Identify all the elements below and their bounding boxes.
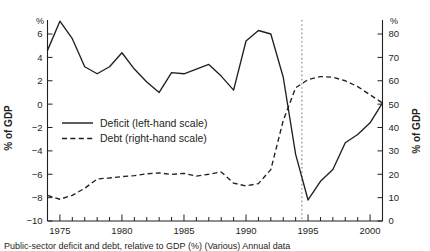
right-axis-title: % of GDP [411,108,422,154]
x-tick-label: 1980 [111,225,132,236]
right-tick-label: 50 [389,99,400,110]
left-axis-title: % of GDP [3,105,14,151]
left-tick-label: 0 [37,99,42,110]
right-tick-label: 80 [389,28,400,39]
right-tick-label: 40 [389,122,400,133]
right-tick-label: 0 [389,215,394,226]
left-axis-unit-label: % [36,16,44,26]
left-tick-label: 4 [37,52,42,63]
left-tick-label: −8 [32,192,43,203]
x-tick-label: 1995 [297,225,318,236]
x-tick-label: 2000 [360,225,381,236]
right-axis-unit-label: % [390,16,398,26]
line-chart: 6420−2−4−6−8−10 80706050403020100 197519… [0,0,430,251]
right-tick-label: 70 [389,52,400,63]
chart-legend: Deficit (left-hand scale)Debt (right-han… [62,117,207,145]
legend-label: Deficit (left-hand scale) [100,117,207,129]
right-tick-label: 30 [389,145,400,156]
legend-item: Debt (right-hand scale) [62,132,207,144]
left-tick-label: 6 [37,28,42,39]
series-layer [48,21,383,200]
left-tick-label: −2 [32,122,43,133]
figure-container: 6420−2−4−6−8−10 80706050403020100 197519… [0,0,430,251]
figure-caption: Public-sector deficit and debt, relative… [4,241,428,251]
axes-group [48,20,383,221]
right-tick-label: 60 [389,75,400,86]
left-tick-label: −6 [32,169,43,180]
x-tick-label: 1975 [49,225,70,236]
legend-label: Debt (right-hand scale) [100,132,207,144]
left-tick-label: 2 [37,75,42,86]
right-tick-label: 20 [389,169,400,180]
debt-series-line [48,77,383,200]
x-tick-label: 1990 [235,225,256,236]
left-axis-ticks: 6420−2−4−6−8−10 [26,28,52,226]
left-tick-label: −10 [26,215,42,226]
legend-item: Deficit (left-hand scale) [62,117,207,129]
right-axis-ticks: 80706050403020100 [378,28,400,226]
x-axis-ticks: 197519801985199019952000 [49,215,382,237]
left-tick-label: −4 [32,145,43,156]
right-tick-label: 10 [389,192,400,203]
x-tick-label: 1985 [173,225,194,236]
